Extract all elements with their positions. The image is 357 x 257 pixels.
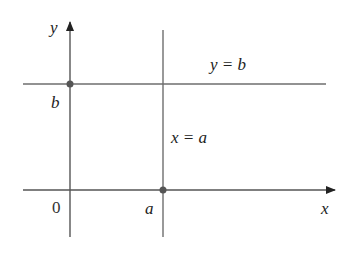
point-a [160,187,167,194]
a-label: a [145,199,154,218]
b-label: b [51,93,60,112]
y-equals-b-label: y = b [208,55,246,74]
y-axis-label: y [48,18,58,37]
point-b [67,81,74,88]
x-axis-label: x [320,199,329,218]
origin-label: 0 [52,198,61,217]
x-equals-a-label: x = a [170,128,207,147]
coordinate-diagram: y x 0 b a y = b x = a [0,0,357,257]
